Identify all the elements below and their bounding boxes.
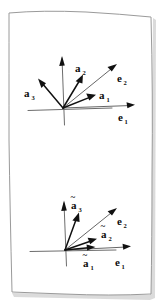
- upper-a2-label-text: a: [75, 62, 81, 74]
- lower-a1-label-text: a: [83, 257, 89, 269]
- lower-e1-label-subscript: 1: [122, 263, 125, 270]
- lower-e2-label-subscript: 2: [124, 222, 127, 229]
- upper-a2-label-subscript: 2: [83, 69, 86, 76]
- upper-e2-label-text: e: [117, 72, 122, 84]
- upper-a1-label-text: a: [99, 89, 105, 101]
- upper-e1-label-subscript: 1: [125, 118, 128, 125]
- upper-e2-label-subscript: 2: [124, 79, 127, 86]
- paper-sheet: [9, 11, 152, 295]
- lower-e2-label-text: e: [117, 215, 122, 227]
- upper-a3-label-text: a: [24, 87, 30, 99]
- lower-e1-label-text: e: [115, 256, 120, 268]
- lower-a2-label-text: a: [101, 228, 107, 240]
- upper-e1-label-text: e: [118, 111, 123, 123]
- lower-a1-label-subscript: 1: [91, 264, 94, 271]
- lower-a3-label-text: a: [71, 199, 77, 211]
- lower-a2-label-subscript: 2: [109, 235, 112, 242]
- figure-canvas: a 1 a 2 a 3 e 1 e 2: [0, 0, 163, 306]
- upper-a1-label-subscript: 1: [107, 96, 110, 103]
- vector-diagram-figure: a 1 a 2 a 3 e 1 e 2: [0, 0, 163, 306]
